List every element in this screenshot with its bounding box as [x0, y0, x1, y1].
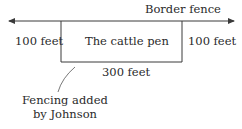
left-side-length-label: 100 feet [15, 35, 63, 48]
fencing-added-callout: Fencing added by Johnson [22, 93, 108, 121]
cattle-pen-label: The cattle pen [85, 35, 169, 48]
callout-line-1: Fencing added [22, 93, 108, 107]
right-side-length-label: 100 feet [188, 35, 236, 48]
bottom-side-length-label: 300 feet [102, 66, 150, 79]
callout-line-2: by Johnson [22, 107, 108, 121]
callout-pointer-line [58, 67, 75, 92]
border-fence-label: Border fence [145, 3, 221, 16]
